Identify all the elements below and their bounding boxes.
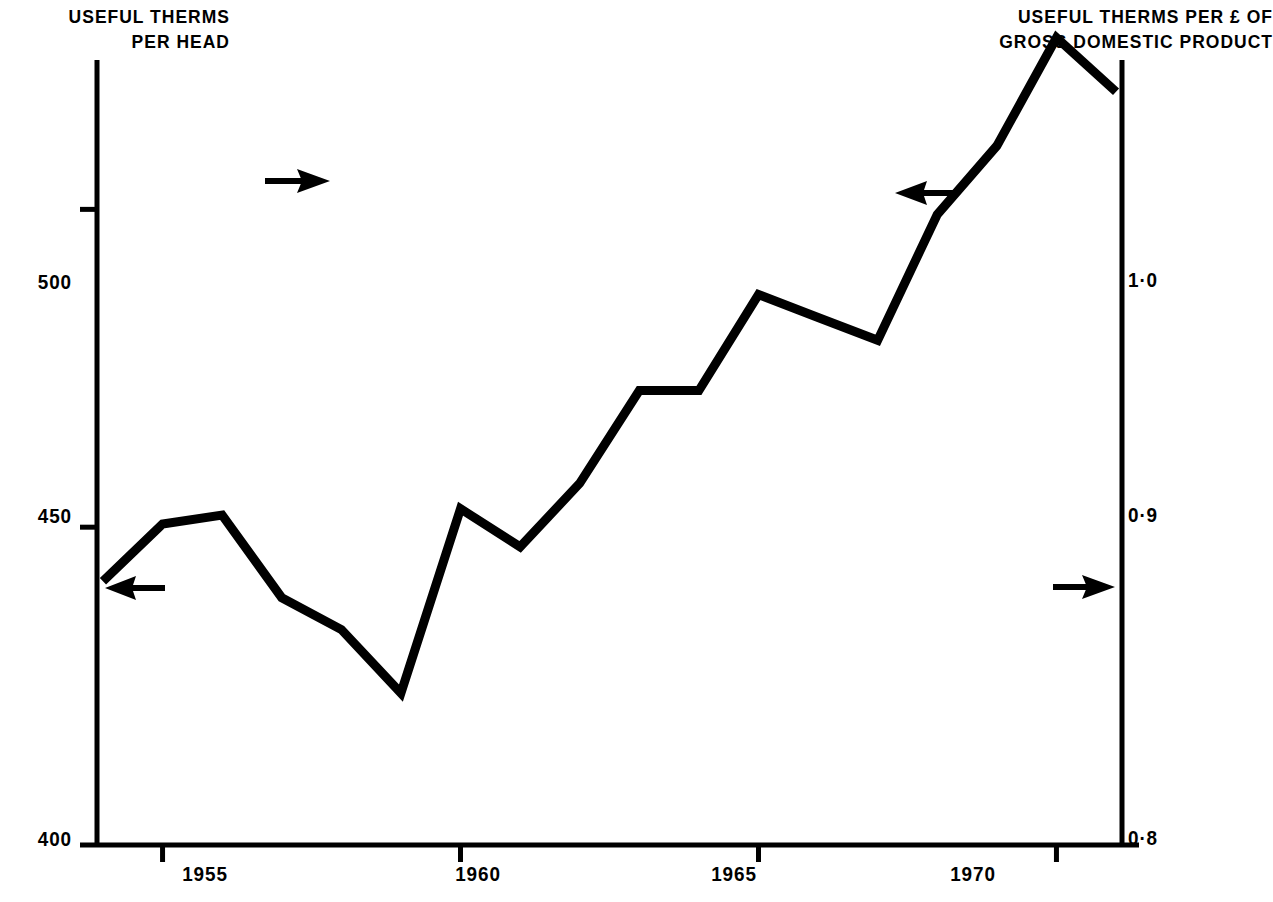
series-line-useful-therms-per-head [103, 38, 1116, 693]
plot-area [0, 0, 1273, 902]
annotation-arrows [105, 169, 1115, 600]
left-axis-ticks [80, 209, 97, 845]
arrow-right-dashed-to-right-axis [1053, 575, 1115, 599]
right-axis-ticks [1122, 0, 1139, 845]
arrow-left-solid-to-left-axis [105, 576, 165, 600]
x-axis-ticks [163, 845, 1057, 862]
chart-figure: USEFUL THERMS PER HEAD USEFUL THERMS PER… [0, 0, 1273, 902]
arrow-upper-dashed-to-right-axis [265, 169, 330, 193]
